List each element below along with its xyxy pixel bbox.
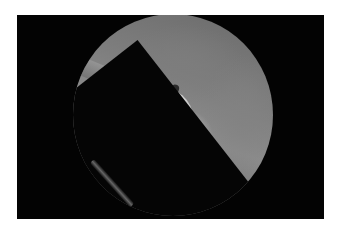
image-frame: [17, 15, 324, 219]
endoscope-view: [73, 15, 273, 216]
